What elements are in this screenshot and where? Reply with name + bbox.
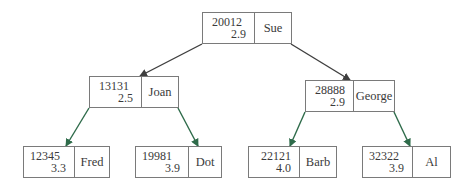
edge-sue-joan (140, 44, 202, 76)
node-name: Al (413, 147, 450, 177)
tree-node-barb: 22121 4.0 Barb (248, 146, 337, 178)
edge-joan-dot (178, 108, 198, 146)
tree-node-dot: 19981 3.9 Dot (135, 146, 222, 178)
node-gpa: 2.9 (330, 96, 345, 109)
node-name: Dot (189, 147, 221, 177)
edge-george-barb (290, 112, 305, 146)
node-name: Fred (75, 147, 109, 177)
node-name: Sue (255, 13, 291, 43)
node-name: Joan (142, 77, 178, 107)
tree-node-joan: 13131 2.5 Joan (89, 76, 179, 108)
tree-node-al: 32322 3.9 Al (362, 146, 451, 178)
node-name: Barb (300, 147, 336, 177)
node-key-cell: 13131 2.5 (90, 77, 142, 107)
node-gpa: 3.3 (51, 162, 66, 175)
edge-george-al (394, 112, 410, 146)
edge-sue-george (291, 44, 350, 80)
tree-node-george: 28888 2.9 George (305, 80, 395, 112)
node-gpa: 4.0 (276, 162, 291, 175)
node-gpa: 3.9 (165, 162, 180, 175)
node-key-cell: 19981 3.9 (136, 147, 189, 177)
tree-node-fred: 12345 3.3 Fred (23, 146, 110, 178)
node-name: George (354, 81, 394, 111)
node-key-cell: 28888 2.9 (306, 81, 354, 111)
node-key-cell: 12345 3.3 (24, 147, 75, 177)
node-key-cell: 22121 4.0 (249, 147, 300, 177)
node-gpa: 2.5 (118, 92, 133, 105)
node-key-cell: 32322 3.9 (363, 147, 413, 177)
node-gpa: 3.9 (389, 162, 404, 175)
node-key-cell: 20012 2.9 (203, 13, 255, 43)
tree-node-sue: 20012 2.9 Sue (202, 12, 292, 44)
node-gpa: 2.9 (231, 28, 246, 41)
edge-joan-fred (66, 108, 89, 146)
